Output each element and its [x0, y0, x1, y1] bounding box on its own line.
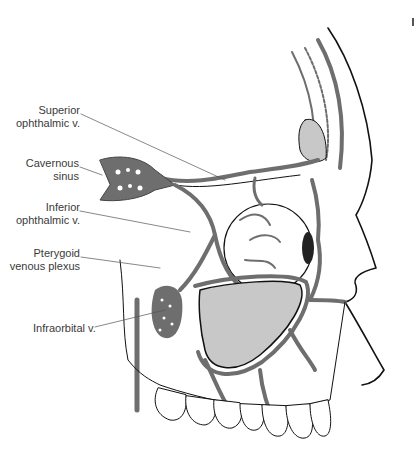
label-cavernous-sinus: Cavernous sinus: [14, 157, 79, 183]
pupil-lens: [302, 232, 314, 264]
anatomy-illustration: [0, 0, 416, 469]
label-line: Superior: [14, 104, 80, 117]
label-line: Inferior: [14, 201, 80, 214]
teeth: [155, 388, 331, 438]
cavernous-sinus-shape: [100, 157, 175, 201]
label-line: Pterygoid: [6, 247, 80, 260]
label-superior-ophthalmic-vein: Superior ophthalmic v.: [14, 104, 80, 130]
label-line: ophthalmic v.: [14, 214, 80, 227]
label-line: sinus: [14, 170, 79, 183]
frontal-sinus: [299, 119, 326, 161]
label-line: Infraorbital v.: [33, 322, 96, 335]
label-line: venous plexus: [6, 260, 80, 273]
label-line: Cavernous: [14, 157, 79, 170]
label-infraorbital-vein: Infraorbital v.: [33, 322, 96, 335]
page-edge-mark: [412, 18, 414, 26]
label-line: ophthalmic v.: [14, 117, 80, 130]
superior-ophthalmic-vein: [160, 160, 318, 181]
label-pterygoid-venous-plexus: Pterygoid venous plexus: [6, 247, 80, 273]
label-inferior-ophthalmic-vein: Inferior ophthalmic v.: [14, 201, 80, 227]
maxillary-sinus: [199, 281, 302, 367]
